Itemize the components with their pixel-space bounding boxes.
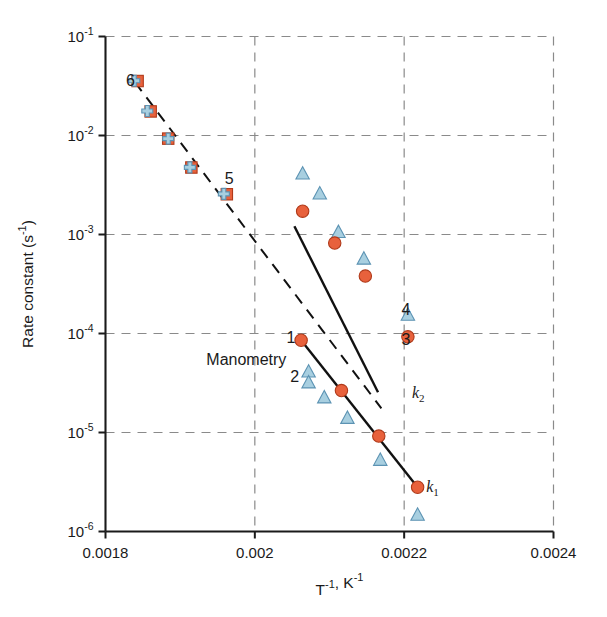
chart-figure: 10-110-210-310-410-510-60.00180.0020.002… [0,0,607,617]
point-label-3: 3 [402,331,411,348]
data-points [129,75,425,520]
x-tick-label: 0.0024 [531,544,577,561]
series-label-k2: k2 [412,384,425,404]
data-point-triangle [318,391,331,403]
x-tick-label: 0.0022 [381,544,427,561]
x-tick-label: 0.0018 [83,544,129,561]
chart-text-layer: 10-110-210-310-410-510-60.00180.0020.002… [16,25,576,598]
y-tick-label: 10-2 [67,124,93,144]
fit-lines [135,82,418,487]
data-point-triangle [341,411,354,423]
data-point-circle [295,334,307,346]
rate-constant-arrhenius-plot: 10-110-210-310-410-510-60.00180.0020.002… [0,0,607,617]
x-axis-title: T-1, K-1 [316,571,364,598]
y-tick-label: 10-3 [67,223,93,243]
series-label-k1: k1 [426,478,439,498]
point-label-6: 6 [126,72,135,89]
k1-solid-fit [301,340,417,487]
y-axis-title: Rate constant (s-1) [16,220,36,348]
data-point-triangle [332,225,345,237]
y-tick-label: 10-4 [67,322,93,342]
data-point-triangle [357,252,370,264]
data-point-circle [335,384,347,396]
point-label-5: 5 [225,170,234,187]
point-label-2: 2 [290,368,299,385]
data-point-circle [329,237,341,249]
data-point-triangle [296,167,309,179]
point-label-4: 4 [402,301,411,318]
x-tick-label: 0.002 [236,544,274,561]
y-tick-label: 10-5 [67,421,93,441]
data-point-circle [373,430,385,442]
axes-frame [106,37,554,532]
data-point-triangle [374,453,387,465]
point-label-1: 1 [287,329,296,346]
gridlines [106,37,554,532]
data-point-triangle [313,187,326,199]
y-tick-label: 10-1 [67,25,93,45]
data-point-circle [359,270,371,282]
manometry-annotation: Manometry [206,351,286,368]
data-point-circle [296,205,308,217]
y-tick-label: 10-6 [67,520,93,540]
data-point-triangle [411,508,424,520]
data-point-circle [411,481,423,493]
